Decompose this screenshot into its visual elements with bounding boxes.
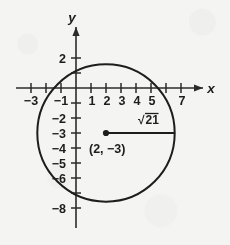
x-tick-label-2: 2: [104, 94, 111, 108]
y-tick-labels: 2 −2 −3 −4 −5 −6 −8: [52, 52, 66, 216]
y-tick-label--8: −8: [52, 202, 66, 216]
y-tick-label--5: −5: [52, 157, 66, 171]
x-tick-label-4: 4: [134, 94, 141, 108]
figure-canvas: −3 −1 1 2 3 4 5 7 2 −2 −3 −4 −5 −6 −8 x …: [0, 0, 230, 245]
x-tick-label-5: 5: [149, 94, 156, 108]
x-axis-label: x: [206, 81, 215, 96]
x-axis-arrowhead: [194, 84, 203, 91]
x-tick-label--1: −1: [54, 94, 68, 108]
y-axis-label: y: [67, 10, 77, 25]
y-tick-label--3: −3: [52, 127, 66, 141]
x-axis-group: [16, 84, 203, 91]
radius-length-label: √ 21: [138, 113, 159, 127]
x-tick-label-3: 3: [119, 94, 126, 108]
center-point-label: (2, −3): [89, 142, 125, 156]
y-axis-group: [72, 27, 79, 228]
radicand-value: 21: [146, 113, 160, 127]
y-tick-label--6: −6: [52, 172, 66, 186]
y-tick-label--2: −2: [52, 112, 66, 126]
x-tick-label-1: 1: [89, 94, 96, 108]
y-tick-label-2: 2: [59, 52, 66, 66]
radical-sign: √: [138, 113, 145, 127]
center-point-dot: [103, 130, 109, 136]
x-tick-label--3: −3: [24, 94, 38, 108]
x-tick-label-7: 7: [179, 94, 186, 108]
coordinate-plane-graph: −3 −1 1 2 3 4 5 7 2 −2 −3 −4 −5 −6 −8 x …: [0, 0, 230, 245]
y-tick-label--4: −4: [52, 142, 66, 156]
y-axis-arrowhead: [72, 27, 79, 36]
